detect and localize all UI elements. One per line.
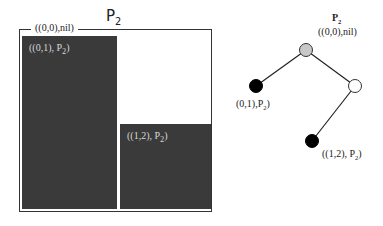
bottom-leaf-node-icon xyxy=(306,135,319,148)
left-leaf-node-icon xyxy=(250,80,263,93)
bottom-leaf-label: ((1,2), P2) xyxy=(322,148,362,161)
root-title-sub: 2 xyxy=(338,18,341,25)
left-leaf-label-text: (0,1),P xyxy=(236,98,263,109)
root-label: ((0,0),nil) xyxy=(318,26,357,37)
root-node-icon xyxy=(300,44,313,57)
left-leaf-label-close: ) xyxy=(266,98,269,109)
bottom-leaf-label-close: ) xyxy=(358,148,361,159)
bottom-leaf-label-text: ((1,2), P xyxy=(322,148,355,159)
left-leaf-label: (0,1),P2) xyxy=(236,98,270,111)
right-node-icon xyxy=(349,80,362,93)
root-title: P2 xyxy=(332,12,341,25)
